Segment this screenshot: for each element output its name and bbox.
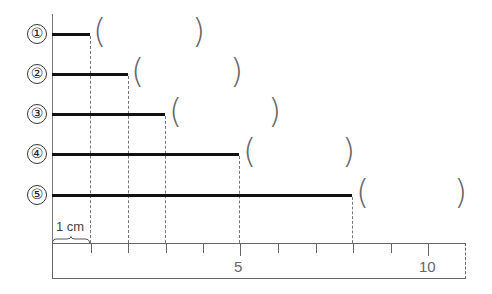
- answer-paren-close-3: ): [268, 94, 281, 128]
- unit-label: 1 cm: [56, 219, 84, 234]
- item-number-3: ③: [27, 104, 47, 124]
- answer-field-4[interactable]: [258, 142, 340, 168]
- ruler-tick-5: [240, 244, 241, 256]
- ruler-label-10: 10: [419, 258, 436, 275]
- answer-paren-close-4: ): [342, 134, 355, 168]
- ruler-tick-4: [203, 244, 204, 253]
- answer-paren-close-2: ): [230, 54, 243, 88]
- ruler-tick-10: [428, 244, 429, 256]
- ruler-tick-2: [128, 244, 129, 253]
- answer-paren-open-3: (: [169, 94, 182, 128]
- item-number-4: ④: [27, 144, 47, 164]
- answer-paren-close-1: ): [192, 14, 205, 48]
- line-segment-3: [52, 113, 165, 116]
- answer-paren-close-5: ): [454, 175, 467, 209]
- answer-paren-open-1: (: [93, 14, 106, 48]
- guide-line-4: [239, 156, 240, 243]
- line-segment-1: [52, 33, 90, 36]
- item-number-1: ①: [27, 24, 47, 44]
- guide-line-3: [165, 116, 166, 243]
- ruler-tick-3: [166, 244, 167, 253]
- guide-line-5: [352, 197, 353, 243]
- guide-line-2: [128, 76, 129, 243]
- ruler-label-5: 5: [234, 258, 242, 275]
- unit-brace-icon: [52, 236, 90, 243]
- answer-field-2[interactable]: [146, 62, 228, 88]
- guide-line-1: [90, 36, 91, 243]
- line-segment-4: [52, 153, 239, 156]
- ruler-tick-9: [391, 244, 392, 253]
- answer-field-1[interactable]: [108, 22, 190, 48]
- ruler: 5 10: [52, 243, 466, 279]
- ruler-tick-1: [91, 244, 92, 253]
- answer-field-5[interactable]: [371, 183, 453, 209]
- ruler-tick-8: [353, 244, 354, 253]
- answer-field-3[interactable]: [184, 102, 266, 128]
- ruler-tick-7: [316, 244, 317, 253]
- answer-paren-open-4: (: [243, 134, 256, 168]
- ruler-tick-6: [278, 244, 279, 253]
- item-number-2: ②: [27, 64, 47, 84]
- answer-paren-open-2: (: [131, 54, 144, 88]
- answer-paren-open-5: (: [356, 175, 369, 209]
- line-segment-5: [52, 194, 352, 197]
- line-segment-2: [52, 73, 128, 76]
- item-number-5: ⑤: [27, 185, 47, 205]
- length-measurement-diagram: ① ( ) ② ( ) ③ ( ) ④ ( ) ⑤ ( ) 1 cm: [0, 0, 492, 294]
